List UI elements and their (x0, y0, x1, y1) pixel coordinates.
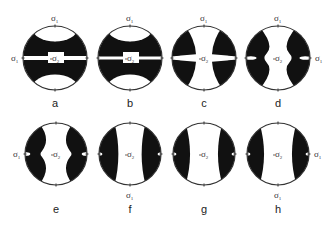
panel-letter-a: a (52, 97, 59, 109)
sigma1-top-label: σ1 (200, 13, 208, 24)
panel-letter-c: c (201, 97, 207, 109)
panel-d: σ1σ1σ2d (240, 13, 323, 109)
panel-letter-h: h (275, 203, 281, 215)
sigma1-right-label: σ1 (314, 149, 322, 160)
panel-f: σ1σ2f (93, 122, 167, 216)
sigma1-bottom-label: σ1 (126, 190, 134, 201)
panel-letter-f: f (128, 203, 132, 215)
panel-letter-e: e (53, 203, 59, 215)
panel-letter-d: d (275, 97, 281, 109)
sigma1-left-label: σ1 (11, 53, 19, 64)
stress-diagram-figure: σ1σ1σ2aσ1σ2bσ1σ2cσ1σ1σ2dσ1σ2eσ1σ2fσ2gσ1σ… (0, 0, 333, 230)
panel-a: σ1σ1σ2a (11, 13, 89, 109)
panel-g: σ2g (167, 122, 241, 216)
panel-letter-g: g (201, 203, 207, 215)
sigma1-right-label: σ1 (315, 53, 323, 64)
sigma1-top-label: σ1 (126, 13, 134, 24)
panel-letter-b: b (127, 97, 133, 109)
sigma1-left-label: σ1 (13, 149, 21, 160)
sigma1-top-label: σ1 (274, 13, 282, 24)
sigma1-top-label: σ1 (51, 13, 59, 24)
panel-b: σ1σ2b (97, 13, 164, 109)
sigma1-bottom-label: σ1 (274, 190, 282, 201)
panel-e: σ1σ2e (13, 122, 93, 216)
panel-c: σ1σ2c (169, 13, 239, 109)
panel-h: σ1σ1σ2h (241, 122, 322, 216)
